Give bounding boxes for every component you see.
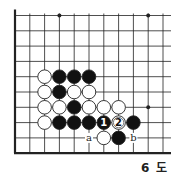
- white-stone: [97, 131, 111, 145]
- go-board: ab12: [0, 0, 183, 160]
- black-stone: [67, 70, 81, 84]
- black-stone: [53, 116, 67, 130]
- point-label-b: b: [130, 132, 136, 143]
- black-stone: [53, 85, 67, 99]
- white-stone: [38, 101, 52, 115]
- star-point: [146, 105, 150, 109]
- black-stone: [112, 131, 126, 145]
- black-stone: [82, 70, 96, 84]
- move-number-2: 2: [115, 117, 122, 128]
- white-stone: [112, 101, 126, 115]
- point-label-a: a: [86, 132, 92, 143]
- black-stone: [67, 116, 81, 130]
- star-point: [146, 14, 150, 18]
- black-stone: [67, 101, 81, 115]
- white-stone: [38, 85, 52, 99]
- white-stone: [38, 70, 52, 84]
- white-stone: [38, 116, 52, 130]
- black-stone: [53, 70, 67, 84]
- white-stone: [53, 101, 67, 115]
- white-stone: [67, 85, 81, 99]
- white-stone: [82, 85, 96, 99]
- move-number-1: 1: [100, 117, 107, 128]
- star-point: [57, 14, 61, 18]
- white-stone: [82, 101, 96, 115]
- white-stone: [97, 101, 111, 115]
- diagram-caption: 6 도: [141, 158, 168, 175]
- black-stone: [82, 116, 96, 130]
- black-stone: [127, 116, 141, 130]
